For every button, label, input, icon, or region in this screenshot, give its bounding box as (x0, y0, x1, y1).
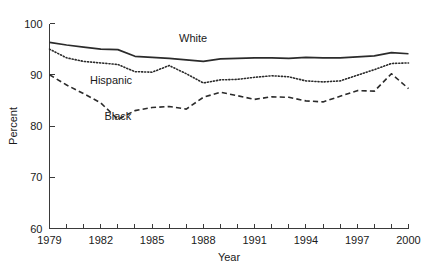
x-axis-tick-labels: 19791982198519881991199419972000 (37, 234, 420, 246)
x-axis-title: Year (218, 251, 241, 263)
series-label-hispanic: Hispanic (90, 74, 133, 86)
x-tick-label: 1988 (191, 234, 215, 246)
y-tick-label: 70 (30, 171, 42, 183)
line-chart: 60708090100 1979198219851988199119941997… (0, 0, 430, 269)
y-tick-label: 80 (30, 120, 42, 132)
plot-axes (50, 24, 409, 229)
x-tick-label: 1994 (294, 234, 318, 246)
x-tick-label: 1979 (37, 234, 61, 246)
x-tick-label: 1997 (345, 234, 369, 246)
y-tick-label: 90 (30, 69, 42, 81)
y-tick-label: 100 (24, 18, 42, 30)
x-tick-label: 1982 (89, 234, 113, 246)
y-axis-ticks (50, 24, 55, 229)
x-tick-label: 1985 (140, 234, 164, 246)
x-tick-label: 2000 (396, 234, 420, 246)
y-axis-tick-labels: 60708090100 (24, 18, 42, 235)
y-axis-title: Percent (7, 107, 19, 145)
x-axis-ticks (50, 224, 409, 229)
chart-container: 60708090100 1979198219851988199119941997… (0, 0, 430, 269)
series-label-white: White (179, 32, 207, 44)
series-line-white (50, 42, 409, 61)
x-tick-label: 1991 (242, 234, 266, 246)
series-label-black: Black (104, 110, 131, 122)
